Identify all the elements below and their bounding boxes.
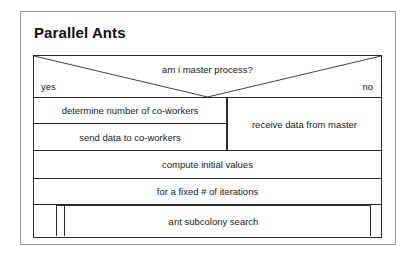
page-canvas: Parallel Ants am i master process? yes n…	[0, 0, 415, 258]
loop-header-block: for a fixed # of iterations	[34, 179, 381, 205]
loop-body-block: ant subcolony search	[56, 205, 371, 236]
branch-step: determine number of co-workers	[34, 98, 226, 124]
decision-condition-label: am i master process?	[34, 64, 381, 75]
page-title: Parallel Ants	[34, 24, 126, 41]
branch-step-label: receive data from master	[252, 119, 357, 130]
loop-header-label: for a fixed # of iterations	[157, 186, 258, 197]
structogram: am i master process? yes no determine nu…	[33, 55, 382, 238]
loop-indent-rail	[64, 205, 65, 236]
branch-step: send data to co-workers	[34, 124, 226, 151]
loop-body-container: ant subcolony search	[34, 205, 381, 237]
branch-container: determine number of co-workers send data…	[34, 98, 381, 151]
branch-step-label: determine number of co-workers	[62, 105, 199, 116]
decision-block: am i master process? yes no	[34, 56, 381, 98]
loop-body-label: ant subcolony search	[169, 216, 259, 227]
branch-step-label: send data to co-workers	[79, 132, 180, 143]
branch-false-column: receive data from master	[228, 98, 381, 150]
process-block: compute initial values	[34, 151, 381, 179]
decision-true-label: yes	[41, 81, 56, 92]
decision-false-label: no	[362, 81, 373, 92]
branch-true-column: determine number of co-workers send data…	[34, 98, 228, 150]
decision-diagonals-icon	[34, 56, 381, 97]
process-block-label: compute initial values	[162, 159, 253, 170]
